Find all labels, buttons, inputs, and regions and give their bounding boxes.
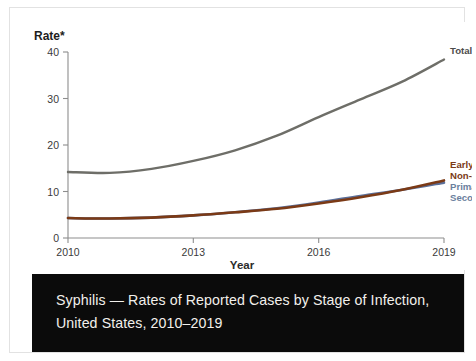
y-tick-label: 10: [47, 186, 59, 198]
series-label-primary-secondary-line2: Secondary: [450, 192, 472, 203]
y-tick-label: 40: [47, 46, 59, 58]
x-tick-label: 2013: [182, 246, 206, 258]
series-line-primary-secondary: [68, 183, 444, 219]
x-tick-label: 2019: [432, 246, 456, 258]
caption-box: Syphilis — Rates of Reported Cases by St…: [32, 274, 464, 352]
y-tick-group: 40 30 20 10 0: [47, 46, 68, 244]
y-tick-label: 20: [47, 139, 59, 151]
slide-frame: Rate* 40 30 20 10 0: [9, 7, 465, 353]
x-tick-label: 2010: [56, 246, 80, 258]
series-label-primary-secondary-line1: Primary and: [450, 181, 472, 192]
series-label-early-line1: Early Non-Primary: [450, 159, 472, 170]
line-chart: Rate* 40 30 20 10 0: [24, 22, 472, 270]
y-tick-label: 30: [47, 93, 59, 105]
chart-plot-area: Rate* 40 30 20 10 0: [24, 22, 472, 270]
slide-page: Rate* 40 30 20 10 0: [0, 0, 476, 361]
series-label-early-line2: Non-Secondary: [450, 170, 472, 181]
series-line-early-non-primary-non-secondary: [68, 180, 444, 218]
y-axis-title: Rate*: [34, 29, 65, 43]
y-tick-label: 0: [53, 232, 59, 244]
x-tick-label: 2016: [307, 246, 331, 258]
caption-text: Syphilis — Rates of Reported Cases by St…: [56, 289, 446, 335]
series-line-total-syphilis: [68, 60, 444, 173]
series-label-total-syphilis: Total Syphilis: [450, 45, 472, 56]
x-tick-group: 2010 2013 2016 2019: [56, 238, 456, 258]
x-axis-title: Year: [230, 259, 255, 270]
